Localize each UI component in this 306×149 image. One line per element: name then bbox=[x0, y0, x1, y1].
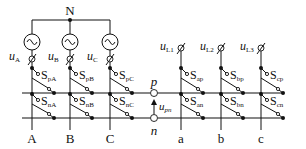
source-voltage-B: uB bbox=[48, 49, 59, 64]
switch-label-bn: Sbn bbox=[230, 94, 244, 109]
output-phase-lines bbox=[177, 43, 265, 130]
source-C bbox=[102, 34, 118, 50]
neutral-label: N bbox=[65, 3, 75, 18]
switch-label-nC: SnC bbox=[119, 94, 134, 109]
load-voltage-L3: uL3 bbox=[240, 39, 254, 54]
n-label: n bbox=[151, 123, 158, 138]
switch-label-pA: SpA bbox=[41, 68, 56, 83]
input-phase-A: A bbox=[27, 131, 37, 146]
input-phase-C: C bbox=[106, 131, 115, 146]
switch-label-cn: Scn bbox=[270, 94, 284, 109]
switch-label-cp: Scp bbox=[270, 68, 284, 83]
source-A bbox=[24, 34, 40, 50]
p-label: p bbox=[150, 74, 158, 89]
output-phase-b: b bbox=[218, 131, 225, 146]
arrow-up-icon bbox=[151, 99, 157, 105]
switch-label-nB: SnB bbox=[79, 94, 94, 109]
n-terminal-icon bbox=[151, 115, 158, 122]
source-voltage-A: uA bbox=[9, 49, 20, 64]
source-voltage-C: uC bbox=[87, 49, 98, 64]
neutral-bus: N bbox=[32, 3, 110, 34]
load-voltage-L1: uL1 bbox=[160, 39, 174, 54]
switch-label-an: San bbox=[190, 94, 204, 109]
source-B bbox=[62, 34, 78, 50]
dc-link bbox=[151, 90, 158, 122]
p-terminal-icon bbox=[151, 90, 158, 97]
circuit-diagram: N uA uB uC bbox=[0, 0, 306, 149]
dc-voltage-label: upn bbox=[159, 100, 172, 114]
switch-label-bp: Sbp bbox=[230, 68, 244, 83]
output-phase-a: a bbox=[178, 131, 184, 146]
input-phase-B: B bbox=[66, 131, 75, 146]
switch-label-pB: SpB bbox=[79, 68, 94, 83]
output-phase-c: c bbox=[258, 131, 264, 146]
switch-label-ap: Sap bbox=[190, 68, 204, 83]
switch-label-nA: SnA bbox=[41, 94, 56, 109]
load-voltage-L2: uL2 bbox=[200, 39, 214, 54]
switch-label-pC: SpC bbox=[119, 68, 134, 83]
